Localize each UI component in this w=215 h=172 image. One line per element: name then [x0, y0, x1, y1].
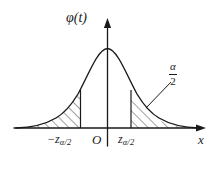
right-critical-value-subscript: α/2 [123, 137, 135, 147]
y-axis-label: φ(t) [66, 11, 87, 25]
left-tail-shaded-region [10, 80, 88, 132]
left-critical-value-label: −zα/2 [47, 133, 71, 147]
right-tail-shaded-region [126, 80, 202, 132]
left-critical-value-subscript: α/2 [60, 137, 72, 147]
y-axis-label-text: φ(t) [66, 10, 87, 25]
fraction-denominator: 2 [169, 76, 177, 88]
x-axis-label-text: x [198, 132, 204, 147]
fraction-numerator: α [169, 61, 177, 73]
origin-label: O [92, 133, 101, 146]
annotation-leader-line [146, 82, 171, 108]
x-axis-label: x [198, 133, 204, 146]
figure-canvas [0, 0, 215, 172]
right-critical-value-label: zα/2 [118, 133, 134, 147]
y-axis-arrowhead [104, 18, 111, 28]
y-axis [104, 18, 111, 146]
alpha-over-two-fraction: α 2 [169, 61, 177, 87]
normal-distribution-figure: φ(t) x O −zα/2 zα/2 α 2 [0, 0, 215, 172]
left-critical-value-base: −z [47, 132, 60, 146]
tail-area-annotation: α 2 [169, 61, 177, 87]
origin-label-text: O [92, 132, 101, 147]
